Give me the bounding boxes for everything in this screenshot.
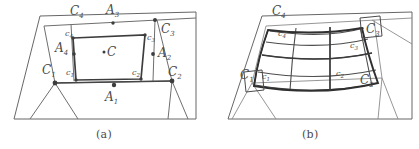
panel-a-bold-band	[55, 81, 172, 83]
label-b-C4-sub: 4	[280, 12, 285, 20]
label-C1-sub: 1	[51, 71, 55, 79]
node-A1	[112, 83, 116, 87]
label-b-C3-base: C	[366, 22, 375, 36]
node-C3	[153, 18, 157, 22]
figure-container: C1 C2 C3 C4 A1 A2 A3	[0, 0, 419, 149]
node-A3	[111, 21, 114, 24]
svg-text:c3: c3	[350, 41, 358, 51]
svg-text:c4: c4	[65, 29, 73, 39]
node-C-center	[103, 51, 106, 54]
label-b-C2-sub: 2	[368, 81, 374, 89]
svg-text:A4: A4	[54, 41, 68, 57]
svg-text:A3: A3	[105, 3, 120, 19]
label-b-C1-sub: 1	[249, 76, 253, 84]
svg-text:c2: c2	[132, 68, 140, 78]
label-b-C4-base: C	[272, 4, 281, 18]
panel-a-labels: C1 C2 C3 C4 A1 A2 A3	[42, 3, 182, 106]
svg-text:c4: c4	[278, 29, 286, 39]
node-C1	[53, 81, 58, 86]
label-A3-sub: 3	[115, 11, 120, 19]
node-c1	[74, 78, 77, 81]
label-c3-sub: 3	[151, 37, 155, 43]
panel-b: C1 C2 C3 C4 c1 c2 c3	[228, 4, 412, 119]
label-b-c2-sub: 2	[339, 73, 344, 79]
label-C2-sub: 2	[176, 73, 182, 81]
label-A4-base: A	[54, 41, 64, 55]
label-A2-sub: 2	[166, 54, 172, 62]
svg-text:C2: C2	[168, 65, 182, 81]
label-C4-base: C	[70, 4, 79, 18]
label-b-c4-sub: 4	[281, 33, 286, 39]
label-C4-sub: 4	[78, 12, 83, 20]
node-A4	[72, 52, 76, 56]
svg-text:C1: C1	[42, 63, 56, 79]
node-C2	[170, 79, 175, 84]
label-A4-sub: 4	[63, 49, 68, 57]
node-A2	[151, 52, 155, 56]
label-A1-sub: 1	[114, 98, 118, 106]
svg-text:c1: c1	[66, 68, 74, 78]
figure-svg: C1 C2 C3 C4 A1 A2 A3	[0, 0, 419, 149]
svg-text:C1: C1	[240, 68, 254, 84]
label-C3-sub: 3	[170, 30, 175, 38]
panel-a: C1 C2 C3 C4 A1 A2 A3	[14, 3, 196, 119]
label-b-C1-base: C	[240, 68, 249, 82]
label-c2-sub: 2	[135, 72, 140, 78]
label-C1-base: C	[42, 63, 51, 77]
svg-text:A1: A1	[104, 90, 118, 106]
svg-text:C3: C3	[366, 22, 380, 38]
label-A3-base: A	[105, 3, 115, 17]
label-b-C3-sub: 3	[375, 30, 380, 38]
svg-text:C2: C2	[360, 73, 374, 89]
label-A1-base: A	[104, 90, 114, 104]
label-b-C2-base: C	[360, 73, 369, 87]
caption-panel-b: (b)	[302, 128, 319, 141]
label-c1-sub: 1	[70, 72, 74, 78]
svg-text:C3: C3	[161, 22, 175, 38]
label-b-c1-sub: 1	[266, 76, 270, 82]
label-C2-base: C	[168, 65, 177, 79]
panel-b-outer-boundary	[228, 12, 412, 119]
label-C-center: C	[107, 45, 116, 59]
svg-text:c2: c2	[336, 69, 344, 79]
caption-panel-a: (a)	[96, 128, 112, 141]
svg-text:C4: C4	[272, 4, 286, 20]
label-c4-sub: 4	[68, 33, 73, 39]
svg-text:C4: C4	[70, 4, 84, 20]
label-A2-base: A	[157, 46, 167, 60]
label-C3-base: C	[161, 22, 170, 36]
label-b-c3-sub: 3	[354, 45, 358, 51]
svg-text:A2: A2	[157, 46, 172, 62]
